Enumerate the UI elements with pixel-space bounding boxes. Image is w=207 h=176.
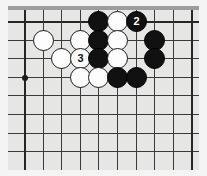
grid-line-horizontal-5 — [8, 114, 199, 115]
board-top-shadow — [8, 6, 199, 10]
stone-white-c4r3[interactable] — [88, 67, 109, 88]
grid-line-horizontal-6 — [8, 133, 199, 134]
stone-black-c4r2[interactable] — [88, 48, 109, 69]
move-number-2: 2 — [133, 16, 139, 27]
grid-line-horizontal-4 — [8, 95, 199, 96]
stone-black-c5r3[interactable] — [107, 67, 128, 88]
stone-white-c5r0[interactable] — [107, 11, 128, 32]
go-board[interactable]: 23 — [8, 6, 199, 170]
grid-line-horizontal-7 — [8, 151, 199, 152]
stone-black-c6r3[interactable] — [126, 67, 147, 88]
stone-black-c7r2[interactable] — [144, 48, 165, 69]
stone-white-c5r2[interactable] — [107, 48, 128, 69]
stone-white-c1r1[interactable] — [33, 30, 54, 51]
stone-white-c2r2[interactable] — [51, 48, 72, 69]
grid-line-vertical-0 — [24, 6, 26, 170]
screenshot-root: 23 — [0, 0, 207, 176]
go-board-grid: 23 — [8, 6, 199, 170]
grid-line-vertical-9 — [191, 6, 193, 170]
stone-black-c4r0[interactable] — [88, 11, 109, 32]
grid-line-vertical-8 — [173, 6, 174, 170]
star-point-0 — [22, 75, 28, 81]
move-number-3: 3 — [77, 53, 83, 64]
grid-line-vertical-2 — [61, 6, 62, 170]
stone-black-c6r0[interactable]: 2 — [126, 11, 147, 32]
